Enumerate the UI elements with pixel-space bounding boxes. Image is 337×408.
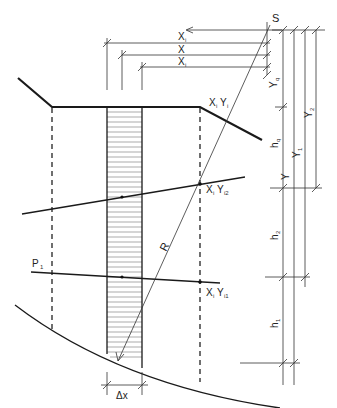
svg-text:Y: Y [220,97,227,108]
svg-text:2: 2 [309,107,315,111]
svg-text:i: i [213,293,214,299]
label-yq: Y q [268,78,280,88]
svg-text:i: i [216,103,217,109]
label-xi-yi: X i Y i [209,97,228,109]
svg-text:Y: Y [280,173,291,180]
svg-text:i: i [213,190,214,196]
point-xi-yi1 [198,280,202,284]
svg-text:P: P [32,258,39,269]
label-h1: h 1 [269,318,281,328]
svg-text:i2: i2 [224,190,229,196]
label-y1: Y 1 [291,147,303,158]
ground-surface [18,78,262,140]
slip-surface-arc [15,305,280,408]
midpoint-dot-2 [120,195,123,198]
svg-text:i1: i1 [224,293,229,299]
svg-text:X: X [206,184,213,195]
svg-text:i: i [227,103,228,109]
svg-text:q: q [275,139,281,142]
label-xi-yi1: X i Y i1 [206,287,229,299]
label-hq: h q [269,139,281,148]
svg-text:i: i [185,62,186,68]
label-p1: P 1 [32,258,44,270]
svg-text:Y: Y [268,81,279,88]
svg-text:h: h [269,322,280,328]
svg-text:i: i [185,37,186,43]
svg-text:q: q [274,78,280,81]
svg-text:Y: Y [291,151,302,158]
pressure-line-2 [22,177,245,214]
label-xi-yi2: X i Y i2 [206,184,229,196]
svg-text:2: 2 [275,230,281,234]
label-h2: h 2 [269,230,281,240]
radius-line [118,25,270,361]
svg-text:1: 1 [40,264,44,270]
svg-text:X: X [209,97,216,108]
svg-text:h: h [269,142,280,148]
svg-text:h: h [269,234,280,240]
svg-text:X: X [206,287,213,298]
label-delta-x: Δx [116,390,128,401]
y-dimension-ticks [263,26,320,367]
label-center-s: S [272,12,279,24]
svg-text:1: 1 [297,147,303,151]
midpoint-dot-1 [120,275,123,278]
svg-text:Y: Y [303,111,314,118]
label-xi-low: X [178,56,185,67]
slope-stability-diagram: S X i X X i Y q Y 2 h q Y 1 Y h 2 h 1 R … [0,0,337,408]
label-y: Y [280,173,291,180]
svg-text:Y: Y [217,287,224,298]
label-xi-top: X [178,31,185,42]
label-radius: R [157,240,171,253]
pressure-line-p1 [31,272,220,283]
label-x-mid: X [178,44,185,55]
svg-text:1: 1 [275,318,281,322]
svg-text:Y: Y [217,184,224,195]
svg-text:R: R [157,240,171,253]
